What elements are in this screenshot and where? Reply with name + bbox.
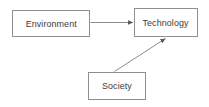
diagram-canvas: Environment Technology Society xyxy=(0,0,209,107)
node-environment-label: Environment xyxy=(25,19,76,29)
node-society-label: Society xyxy=(102,81,132,91)
node-society[interactable]: Society xyxy=(88,72,146,100)
node-technology-label: Technology xyxy=(143,18,189,28)
edge-society-to-technology xyxy=(115,39,166,72)
node-environment[interactable]: Environment xyxy=(12,10,90,37)
node-technology[interactable]: Technology xyxy=(134,8,198,37)
